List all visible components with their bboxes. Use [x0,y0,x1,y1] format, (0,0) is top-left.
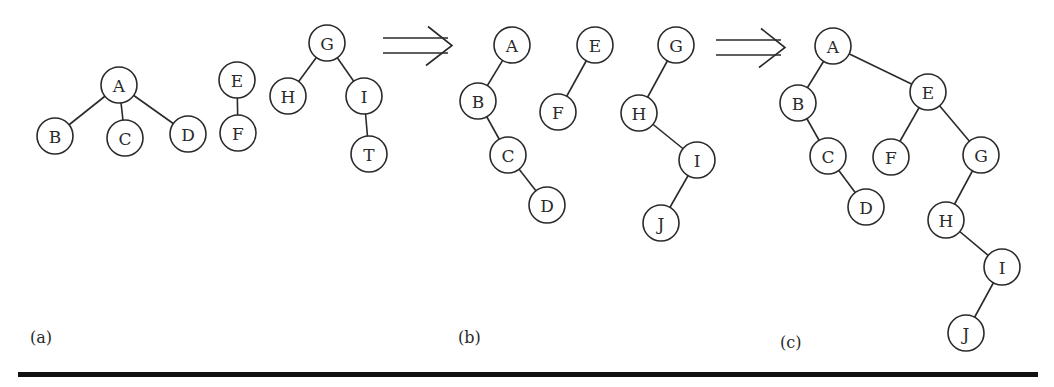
node-label: A [826,37,840,57]
tree-node-A: A [101,67,137,103]
edges [478,45,697,223]
tree-node-J: J [948,315,984,351]
edges [798,46,1002,333]
panel-a: ABCDEFGHIT(a) [30,25,387,347]
node-label: I [694,151,701,171]
node-label: T [363,145,375,165]
tree-node-H: H [928,202,964,238]
tree-node-B: B [460,83,496,119]
node-label: D [181,125,195,145]
node-label: H [281,87,296,107]
tree-node-H: H [621,95,657,131]
arrow-a-to-b-icon [383,27,452,66]
arrow-b-to-c-icon [716,29,785,68]
tree-node-B: B [37,118,73,154]
node-label: H [632,104,647,124]
node-label: D [859,198,873,218]
tree-node-H: H [270,78,306,114]
node-label: G [974,146,988,166]
bottom-rule [18,372,1038,377]
tree-node-C: C [107,120,143,156]
tree-node-T: T [351,136,387,172]
panel-label-a: (a) [30,328,52,347]
node-label: J [961,324,970,344]
node-label: E [922,83,934,103]
node-label: A [505,36,519,56]
tree-node-D: D [170,116,206,152]
tree-node-G: G [963,137,999,173]
node-label: B [49,127,62,147]
node-label: C [118,129,131,149]
node-label: F [232,124,244,144]
tree-node-B: B [780,85,816,121]
tree-node-D: D [848,189,884,225]
tree-node-F: F [220,115,256,151]
panel-c: ABCDEFGHIJ(c) [780,28,1020,352]
tree-node-I: I [346,78,382,114]
node-label: C [821,147,834,167]
tree-node-G: G [658,27,694,63]
node-label: A [112,76,126,96]
tree-node-E: E [577,27,613,63]
node-label: J [656,214,665,234]
node-label: E [589,36,601,56]
panel-label-b: (b) [458,328,481,347]
tree-node-I: I [984,249,1020,285]
node-label: G [669,36,683,56]
node-label: F [552,103,564,123]
tree-node-C: C [490,137,526,173]
tree-node-F: F [873,139,909,175]
node-label: B [792,94,805,114]
node-label: D [540,196,554,216]
node-label: G [320,34,334,54]
tree-node-C: C [810,138,846,174]
panel-label-c: (c) [780,333,801,352]
node-label: E [231,71,243,91]
node-label: B [472,92,485,112]
node-label: C [501,146,514,166]
tree-node-J: J [643,205,679,241]
panel-b: ABCDEFGHIJ(b) [458,27,715,347]
tree-node-E: E [910,74,946,110]
tree-node-I: I [679,142,715,178]
tree-node-G: G [309,25,345,61]
tree-panels: ABCDEFGHIT(a)ABCDEFGHIJ(b)ABCDEFGHIJ(c) [30,25,1020,352]
forest-to-binary-tree-diagram: ABCDEFGHIT(a)ABCDEFGHIJ(b)ABCDEFGHIJ(c) [0,0,1054,387]
tree-node-F: F [540,94,576,130]
tree-node-A: A [815,28,851,64]
tree-node-A: A [494,27,530,63]
tree-node-E: E [219,62,255,98]
node-label: F [885,148,897,168]
tree-node-D: D [529,187,565,223]
node-label: I [999,258,1006,278]
node-label: I [361,87,368,107]
node-label: H [939,211,954,231]
